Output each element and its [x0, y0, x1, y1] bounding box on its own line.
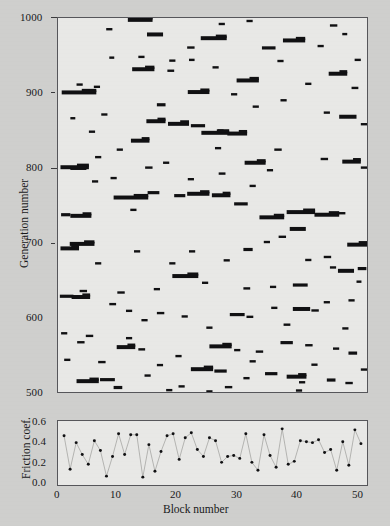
friction-point-group	[63, 427, 363, 478]
block-segment	[274, 148, 281, 150]
friction-coefficient-plot	[58, 421, 367, 485]
block-segment-step	[200, 190, 209, 193]
main-ytick-900	[51, 168, 57, 169]
block-segment	[348, 352, 357, 355]
block-segment	[138, 56, 144, 58]
block-segment	[157, 364, 163, 366]
block-segment	[61, 213, 70, 216]
friction-data-point	[329, 448, 332, 451]
block-segment	[213, 66, 219, 68]
block-segment-step	[274, 214, 284, 217]
block-segment	[280, 99, 286, 101]
block-segment	[284, 323, 291, 325]
block-segment	[243, 248, 252, 251]
block-segment-step	[257, 159, 266, 162]
block-segment	[157, 103, 166, 106]
friction-data-point	[256, 469, 259, 472]
friction-line	[64, 429, 361, 477]
block-segment	[147, 32, 163, 36]
block-segment	[299, 381, 305, 383]
block-segment	[338, 212, 345, 214]
block-segment-step	[339, 70, 347, 73]
friction-data-point	[287, 463, 290, 466]
friction-data-point	[184, 436, 187, 439]
main-ytick-label-500: 500	[26, 386, 43, 398]
friction-data-point	[178, 458, 181, 461]
friction-data-point	[275, 466, 278, 469]
block-segment-step	[157, 118, 165, 121]
block-segment-step	[84, 240, 94, 243]
friction-data-point	[293, 460, 296, 463]
block-segment	[126, 337, 132, 339]
friction-data-point	[123, 453, 126, 456]
friction-data-point	[250, 461, 253, 464]
lower-xtick-label-30: 30	[231, 488, 242, 500]
block-segment	[109, 56, 114, 58]
block-segment-step	[83, 212, 92, 215]
block-segment	[95, 156, 101, 158]
block-segment	[202, 282, 208, 284]
block-segment	[324, 111, 330, 113]
friction-data-point	[232, 454, 235, 457]
friction-coefficient-panel	[57, 420, 368, 486]
friction-data-point	[129, 433, 132, 436]
block-segment	[92, 180, 98, 182]
block-segment	[219, 23, 225, 25]
block-segment	[111, 177, 117, 179]
main-ytick-label-600: 600	[26, 311, 43, 323]
block-segment	[77, 83, 83, 85]
friction-data-point	[93, 439, 96, 442]
block-segment	[138, 348, 145, 350]
block-segment	[145, 166, 152, 168]
block-segment	[225, 386, 232, 388]
main-ytick-850b	[51, 243, 55, 244]
friction-data-point	[341, 440, 344, 443]
block-segment-step	[127, 344, 135, 347]
friction-data-point	[69, 468, 72, 471]
main-ytick-1000	[51, 17, 57, 18]
friction-data-point	[160, 450, 163, 453]
block-segment	[98, 361, 105, 363]
block-segment	[352, 87, 359, 89]
block-segment	[141, 319, 147, 321]
segment-group	[60, 18, 367, 392]
block-segment-step	[89, 378, 98, 381]
friction-data-point	[63, 434, 66, 437]
main-ytick-label-800: 800	[26, 161, 43, 173]
lower-xtick-label-50: 50	[352, 488, 363, 500]
block-segment	[64, 359, 70, 361]
block-segment	[333, 347, 339, 349]
block-segment	[70, 117, 75, 119]
block-segment	[253, 105, 259, 107]
block-segment	[342, 327, 348, 329]
block-segment	[157, 312, 164, 314]
block-segment	[267, 169, 273, 171]
block-segment-step	[142, 137, 150, 140]
block-segment	[234, 202, 248, 205]
block-segment	[126, 310, 132, 312]
block-segment-step	[145, 66, 154, 69]
friction-data-point	[317, 438, 320, 441]
block-segment-step	[222, 343, 231, 346]
block-segment	[279, 236, 286, 238]
friction-data-point	[214, 439, 217, 442]
friction-data-point	[153, 470, 156, 473]
main-ytick-label-900: 900	[26, 86, 43, 98]
friction-data-point	[172, 432, 175, 435]
block-segment	[189, 59, 195, 61]
main-ytick-label-1000: 1000	[20, 11, 42, 23]
block-segment	[361, 166, 367, 168]
block-segment-step	[187, 272, 198, 275]
block-segment-step	[142, 18, 152, 19]
block-segment-step	[303, 209, 315, 212]
block-segment	[265, 372, 277, 375]
block-segment	[206, 326, 212, 328]
friction-data-point	[305, 440, 308, 443]
friction-data-point	[299, 439, 302, 442]
block-segment	[338, 269, 354, 273]
block-segment	[262, 46, 276, 49]
friction-data-point	[244, 432, 247, 435]
block-segment	[117, 291, 124, 293]
friction-data-point	[111, 455, 114, 458]
block-segment-step	[180, 120, 189, 123]
